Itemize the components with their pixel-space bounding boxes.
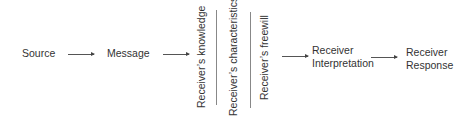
node-receiver-freewill: Receiver’s freewill	[258, 15, 270, 100]
node-receiver-characteristics: Receiver’s characteristics	[227, 0, 239, 116]
divider-line	[250, 12, 251, 108]
arrow-interpretation-to-response	[371, 57, 397, 58]
arrow-message-to-receiver	[163, 54, 189, 55]
response-line2: Response	[406, 59, 453, 72]
arrow-source-to-message	[68, 54, 94, 55]
interpretation-line1: Receiver	[312, 44, 374, 57]
node-receiver-knowledge: Receiver’s knowledge	[195, 6, 207, 108]
divider-line	[216, 10, 217, 105]
node-receiver-interpretation: Receiver Interpretation	[312, 44, 374, 70]
node-source: Source	[22, 47, 55, 60]
node-message: Message	[107, 47, 150, 60]
interpretation-line2: Interpretation	[312, 57, 374, 70]
arrow-receiver-to-interpretation	[282, 56, 308, 57]
node-receiver-response: Receiver Response	[406, 46, 453, 72]
response-line1: Receiver	[406, 46, 453, 59]
